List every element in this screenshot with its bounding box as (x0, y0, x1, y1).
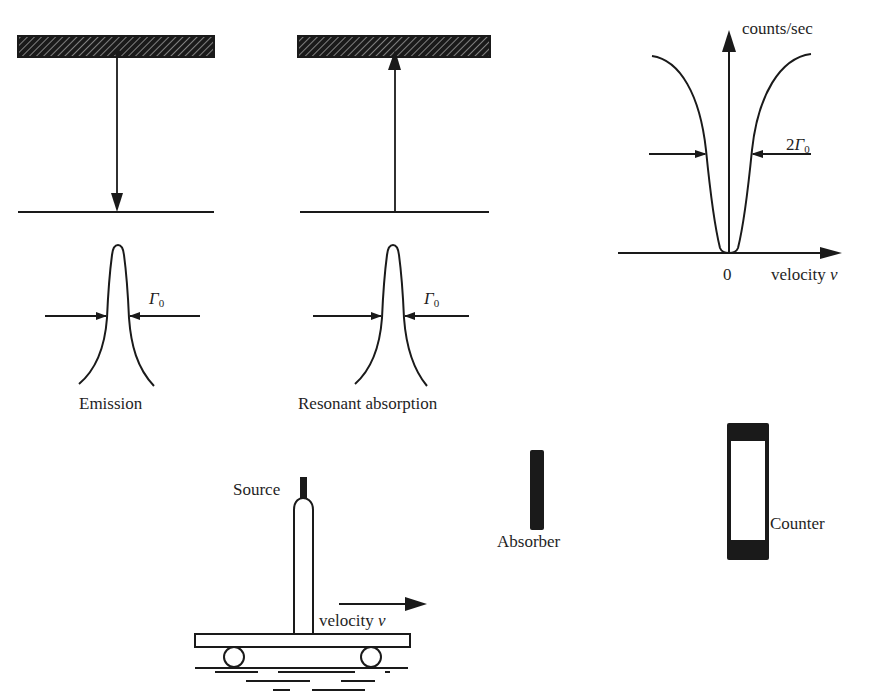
y-axis-label: counts/sec (742, 20, 813, 37)
counter-label: Counter (770, 515, 825, 532)
velocity-arrow-head (405, 597, 427, 611)
cart-wheel-right (361, 647, 381, 667)
source-label: Source (233, 481, 280, 498)
x-axis-arrow-head (820, 247, 842, 259)
cart-platform (195, 634, 410, 647)
mossbauer-diagram (0, 0, 874, 696)
absorption-width-label: Γ0 (424, 290, 439, 307)
velocity-label: velocity v (319, 612, 386, 629)
absorption-level-diagram (298, 36, 490, 212)
y-axis-arrow-head (722, 30, 736, 52)
ground-track (195, 668, 408, 690)
emission-width-arrows (45, 312, 200, 320)
source-cart (195, 477, 427, 690)
emission-width-label: Γ0 (149, 290, 164, 307)
absorption-caption: Resonant absorption (298, 395, 437, 412)
cart-wheel-left (224, 647, 244, 667)
emission-caption: Emission (79, 395, 142, 412)
spectrum-width-label: 2Γ0 (786, 136, 810, 153)
absorber-label: Absorber (497, 533, 560, 550)
absorber-block (530, 450, 544, 530)
absorption-width-arrows (313, 312, 469, 320)
source-holder (294, 498, 313, 634)
origin-label: 0 (723, 266, 732, 283)
emission-arrow-head (111, 193, 123, 212)
x-axis-label: velocity v (771, 266, 838, 283)
counter-detector (727, 423, 769, 560)
emission-level-diagram (18, 36, 214, 212)
